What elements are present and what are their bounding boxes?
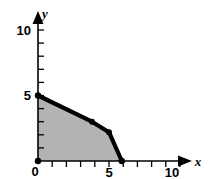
vertex-point-b — [89, 119, 95, 125]
x-axis-label-10: 10 — [165, 165, 179, 179]
coordinate-plot: 0 5 10 5 10 x y — [0, 0, 214, 179]
y-axis-label-10: 10 — [17, 23, 31, 38]
x-axis-label-0: 0 — [31, 164, 38, 179]
graph-figure: 0 5 10 5 10 x y — [0, 0, 214, 179]
vertex-point-c — [106, 129, 112, 135]
y-axis-label-5: 5 — [24, 88, 31, 103]
x-axis-label-5: 5 — [105, 165, 112, 179]
vertex-point-a — [35, 92, 41, 98]
shaded-region — [38, 96, 122, 162]
vertex-point-d — [119, 158, 125, 164]
x-axis-ticks — [52, 161, 180, 167]
y-axis-name: y — [40, 6, 48, 21]
x-axis-name: x — [194, 154, 202, 169]
